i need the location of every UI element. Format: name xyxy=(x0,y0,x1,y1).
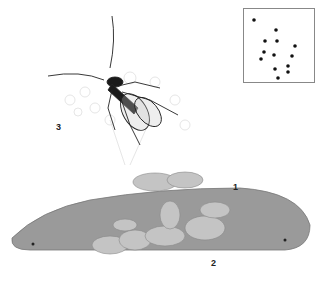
range-dot xyxy=(286,64,290,68)
range-dot xyxy=(252,18,256,22)
range-dot xyxy=(272,53,276,57)
range-dot xyxy=(286,70,290,74)
range-dot xyxy=(263,39,267,43)
range-dot xyxy=(290,54,294,58)
range-dot xyxy=(293,44,297,48)
range-dot xyxy=(275,39,279,43)
range-dot xyxy=(262,50,266,54)
range-dot xyxy=(276,76,280,80)
range-dot xyxy=(273,67,277,71)
range-dot xyxy=(259,57,263,61)
range-map-dots xyxy=(0,0,330,286)
label-wasp: 3 xyxy=(56,122,61,132)
label-larvae: 2 xyxy=(211,258,216,268)
label-caterpillar: 1 xyxy=(233,182,238,192)
range-dot xyxy=(274,28,278,32)
